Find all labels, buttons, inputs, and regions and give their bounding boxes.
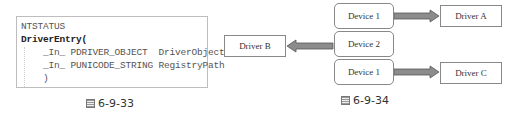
arrow-left-icon (286, 39, 334, 53)
device-label: Device 2 (348, 39, 380, 49)
arrow-right-icon (394, 65, 440, 79)
code-line-return-type: NTSTATUS (21, 21, 65, 32)
code-snippet-box: NTSTATUS DriverEntry( _In_ PDRIVER_OBJEC… (16, 16, 208, 88)
code-line-param-driver-object: _In_ PDRIVER_OBJECT DriverObject, (21, 47, 230, 58)
figure-icon (86, 99, 95, 108)
driver-box-b: Driver B (224, 35, 286, 57)
driver-label: Driver C (455, 68, 487, 78)
driver-box-c: Driver C (440, 62, 502, 84)
driver-box-a: Driver A (440, 5, 502, 27)
device-box-2: Device 2 (334, 31, 394, 57)
driver-label: Driver A (455, 11, 487, 21)
figure-caption-text: 6-9-34 (353, 94, 389, 107)
device-label: Device 1 (348, 11, 380, 21)
device-box-3: Device 1 (334, 59, 394, 85)
code-line-close-paren: ) (21, 73, 49, 84)
figure-icon (341, 96, 350, 105)
code-line-function-name: DriverEntry( (21, 34, 87, 45)
figure-caption-33: 6-9-33 (86, 97, 134, 110)
arrow-right-icon (394, 9, 440, 23)
figure-caption-text: 6-9-33 (98, 97, 134, 110)
device-label: Device 1 (348, 67, 380, 77)
figure-caption-34: 6-9-34 (341, 94, 389, 107)
code-line-param-registry-path: _In_ PUNICODE_STRING RegistryPath (21, 60, 225, 71)
device-box-1: Device 1 (334, 3, 394, 29)
driver-label: Driver B (239, 41, 271, 51)
